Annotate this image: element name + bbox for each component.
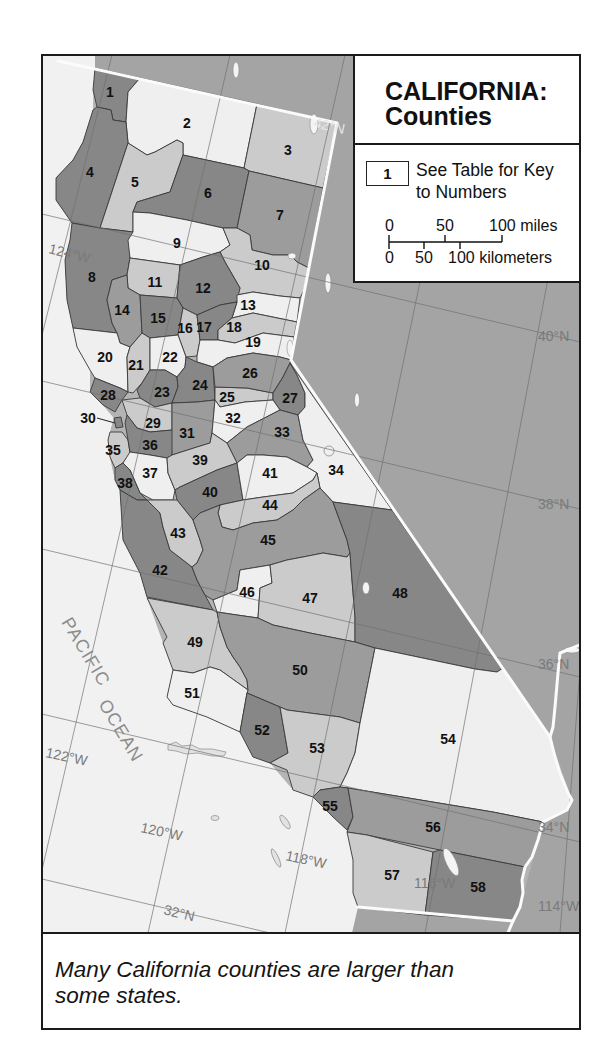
caption-divider bbox=[41, 932, 581, 934]
county-number-label: 13 bbox=[240, 297, 256, 313]
pyramid-lake bbox=[325, 273, 331, 293]
county-number-label: 53 bbox=[309, 740, 325, 756]
county-number-label: 3 bbox=[284, 142, 292, 158]
walker-lake bbox=[355, 393, 360, 407]
county-number-label: 28 bbox=[100, 387, 116, 403]
county-number-label: 7 bbox=[276, 207, 284, 223]
county-number-label: 32 bbox=[225, 410, 241, 426]
county-number-label: 39 bbox=[192, 452, 208, 468]
county-number-label: 57 bbox=[384, 867, 400, 883]
county-number-label: 38 bbox=[117, 475, 133, 491]
label-38n: 38°N bbox=[538, 496, 569, 512]
upper-klamath-lake bbox=[233, 62, 239, 78]
county-number-label: 29 bbox=[145, 415, 161, 431]
label-36n: 36°N bbox=[538, 656, 569, 672]
county-number-label: 42 bbox=[152, 562, 168, 578]
county-number-label: 5 bbox=[131, 174, 139, 190]
county-number-label: 49 bbox=[187, 634, 203, 650]
county-number-label: 12 bbox=[195, 280, 211, 296]
county-number-label: 33 bbox=[274, 424, 290, 440]
label-40n: 40°N bbox=[538, 328, 569, 344]
scale-miles-0: 0 bbox=[385, 218, 394, 234]
county-number-label: 17 bbox=[196, 319, 212, 335]
island-santa-barbara bbox=[211, 816, 219, 821]
county-number-label: 1 bbox=[106, 84, 114, 100]
county-number-label: 26 bbox=[242, 365, 258, 381]
county-number-label: 55 bbox=[322, 798, 338, 814]
county-number-label: 4 bbox=[86, 164, 94, 180]
county-30 bbox=[114, 417, 123, 428]
county-number-label: 37 bbox=[142, 465, 158, 481]
county-number-label: 14 bbox=[114, 302, 130, 318]
county-number-label: 23 bbox=[154, 384, 170, 400]
scale-bar bbox=[355, 55, 580, 281]
county-number-label: 24 bbox=[192, 377, 208, 393]
county-number-label: 9 bbox=[173, 235, 181, 251]
legend-box: CALIFORNIA: Counties 1 See Table for Key… bbox=[353, 55, 580, 283]
county-number-label: 15 bbox=[150, 310, 166, 326]
county-number-label: 48 bbox=[392, 585, 408, 601]
county-number-label: 44 bbox=[262, 497, 278, 513]
owens-lake bbox=[363, 582, 370, 594]
county-number-label: 34 bbox=[328, 462, 344, 478]
county-number-label: 18 bbox=[226, 319, 242, 335]
county-number-label: 2 bbox=[183, 115, 191, 131]
county-number-label: 36 bbox=[142, 437, 158, 453]
figure-caption: Many California counties are larger than… bbox=[55, 957, 454, 1009]
county-number-label: 27 bbox=[282, 390, 298, 406]
scale-km-100: 100 kilometers bbox=[448, 250, 552, 266]
county-number-label: 51 bbox=[184, 685, 200, 701]
scale-miles-100: 100 miles bbox=[489, 218, 557, 234]
label-114w: 114°W bbox=[538, 898, 580, 914]
county-number-label: 22 bbox=[162, 349, 178, 365]
scale-km-50: 50 bbox=[415, 250, 433, 266]
eagle-lake bbox=[288, 253, 296, 259]
county-number-label: 20 bbox=[97, 349, 113, 365]
county-number-label: 8 bbox=[88, 269, 96, 285]
county-number-label: 35 bbox=[105, 442, 121, 458]
county-number-label: 45 bbox=[260, 532, 276, 548]
county-number-label: 41 bbox=[262, 465, 278, 481]
county-number-label: 11 bbox=[148, 274, 163, 290]
county-number-label: 47 bbox=[302, 590, 318, 606]
county-number-label: 21 bbox=[128, 357, 144, 373]
county-number-label: 16 bbox=[177, 320, 193, 336]
county-number-label: 19 bbox=[245, 334, 261, 350]
county-number-label: 54 bbox=[440, 731, 456, 747]
county-number-label: 43 bbox=[170, 525, 186, 541]
scale-km-0: 0 bbox=[385, 250, 394, 266]
county-number-label: 31 bbox=[179, 425, 195, 441]
county-number-label: 52 bbox=[254, 722, 270, 738]
county-number-label: 46 bbox=[239, 584, 255, 600]
county-number-label: 50 bbox=[292, 662, 308, 678]
county-number-label: 25 bbox=[219, 389, 235, 405]
label-116w: 116°W bbox=[414, 875, 456, 891]
caption-line2: some states. bbox=[55, 983, 454, 1009]
label-34n: 34°N bbox=[538, 819, 569, 835]
county-number-label: 56 bbox=[425, 819, 441, 835]
scale-miles-50: 50 bbox=[436, 218, 454, 234]
county-number-label: 30 bbox=[80, 410, 96, 426]
county-number-label: 6 bbox=[204, 185, 212, 201]
county-number-label: 40 bbox=[202, 484, 218, 500]
county-number-label: 58 bbox=[470, 879, 486, 895]
county-number-label: 10 bbox=[254, 257, 270, 273]
caption-line1: Many California counties are larger than bbox=[55, 957, 454, 983]
